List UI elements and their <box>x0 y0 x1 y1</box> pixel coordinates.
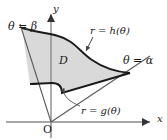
label-theta-alpha: θ = α <box>123 55 153 66</box>
polar-region-figure: θ = β θ = α r = h(θ) r = g(θ) D y x O <box>0 0 167 140</box>
label-r-equals-h: r = h(θ) <box>90 26 130 36</box>
label-r-equals-g: r = g(θ) <box>81 106 121 116</box>
label-x-axis: x <box>157 114 163 124</box>
outer-curve-pointer-arrow <box>86 37 93 51</box>
label-theta-beta: θ = β <box>8 21 37 32</box>
label-y-axis: y <box>53 4 59 14</box>
label-origin: O <box>43 124 52 135</box>
label-region-d: D <box>59 55 68 66</box>
